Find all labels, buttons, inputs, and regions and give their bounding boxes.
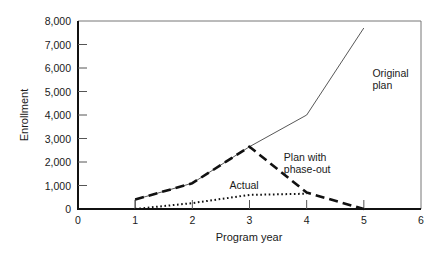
y-tick-label: 2,000 bbox=[45, 156, 71, 168]
y-tick-label: 3,000 bbox=[45, 133, 71, 145]
chart-annotations: OriginalplanPlan withphase-outActual bbox=[229, 67, 408, 191]
y-tick-label: 4,000 bbox=[45, 109, 71, 121]
y-tick-label: 7,000 bbox=[45, 39, 71, 51]
y-tick-label: 8,000 bbox=[45, 15, 71, 27]
y-tick-label: 5,000 bbox=[45, 86, 71, 98]
series-actual bbox=[135, 194, 307, 209]
x-axis-label: Program year bbox=[216, 231, 283, 243]
chart-axes: 01,0002,0003,0004,0005,0006,0007,0008,00… bbox=[45, 15, 424, 226]
x-tick-label: 1 bbox=[132, 214, 138, 226]
y-tick-label: 6,000 bbox=[45, 62, 71, 74]
x-tick-label: 3 bbox=[247, 214, 253, 226]
series-plan-with-phase-out bbox=[135, 147, 364, 209]
y-tick-label: 1,000 bbox=[45, 180, 71, 192]
annotation-label: Plan withphase-out bbox=[284, 151, 331, 175]
x-tick-label: 2 bbox=[189, 214, 195, 226]
annotation-label: Actual bbox=[229, 179, 258, 191]
y-tick-label: 0 bbox=[65, 203, 71, 215]
annotation-label: Originalplan bbox=[372, 67, 408, 91]
x-tick-label: 6 bbox=[418, 214, 424, 226]
x-tick-label: 0 bbox=[75, 214, 81, 226]
enrollment-line-chart: 01,0002,0003,0004,0005,0006,0007,0008,00… bbox=[0, 0, 444, 256]
x-tick-label: 4 bbox=[304, 214, 310, 226]
y-axis-label: Enrollment bbox=[18, 89, 30, 142]
x-tick-label: 5 bbox=[361, 214, 367, 226]
